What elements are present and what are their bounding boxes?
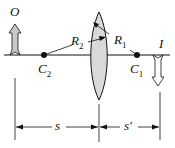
lens <box>91 12 108 100</box>
r2-line <box>44 45 72 55</box>
r2-label: R2 <box>71 34 83 51</box>
s-label: s <box>55 119 60 132</box>
c2-label: C2 <box>38 62 51 79</box>
c2-letter: C <box>38 61 47 76</box>
image-arrow <box>152 55 164 86</box>
c1-letter: C <box>130 61 139 76</box>
s-prime-arrowhead-right <box>152 125 159 130</box>
r1-subscript: 1 <box>122 40 127 50</box>
image-label: I <box>159 37 163 50</box>
c1-label: C1 <box>130 62 143 79</box>
s-arrowhead-left <box>16 125 23 130</box>
s-prime-label: s′ <box>124 119 132 132</box>
r2-subscript: 2 <box>79 41 84 51</box>
c1-subscript: 1 <box>139 69 144 79</box>
r2-letter: R <box>71 33 79 48</box>
diagram-graphics <box>0 0 175 148</box>
r1-label: R1 <box>114 33 126 50</box>
s-prime-arrowhead-left <box>100 125 107 130</box>
object-label: O <box>10 5 19 18</box>
r1-letter: R <box>114 32 122 47</box>
s-arrowhead-right <box>91 125 98 130</box>
c2-subscript: 2 <box>47 69 52 79</box>
thin-lens-diagram: O I C2 C1 R2 R1 s s′ <box>0 0 175 148</box>
object-arrow <box>9 24 21 55</box>
